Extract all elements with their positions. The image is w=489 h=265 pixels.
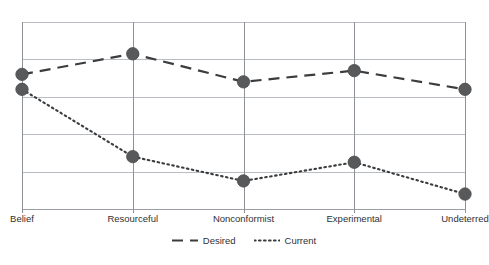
legend-label: Current: [285, 235, 317, 246]
chart-legend: DesiredCurrent: [0, 235, 488, 246]
data-point-marker[interactable]: [348, 64, 360, 76]
legend-swatch-dotted: [254, 236, 280, 245]
series-layer: [22, 22, 465, 209]
data-point-marker[interactable]: [459, 83, 471, 95]
data-point-marker[interactable]: [237, 175, 249, 187]
data-point-marker[interactable]: [16, 68, 28, 80]
legend-swatch-dashed: [172, 236, 198, 245]
legend-label: Desired: [203, 235, 236, 246]
x-axis-label-nonconformist: Nonconformist: [213, 213, 274, 225]
data-point-marker[interactable]: [237, 76, 249, 88]
x-axis-label-undeterred: Undeterred: [441, 213, 489, 225]
legend-item-desired[interactable]: Desired: [172, 235, 236, 246]
data-point-marker[interactable]: [127, 48, 139, 60]
data-point-marker[interactable]: [348, 156, 360, 168]
legend-item-current[interactable]: Current: [254, 235, 317, 246]
category-tick-undeterred: [465, 22, 466, 209]
x-axis-label-belief: Belief: [10, 213, 34, 225]
data-point-marker[interactable]: [127, 150, 139, 162]
plot-area: [22, 22, 465, 209]
x-axis-label-resourceful: Resourceful: [107, 213, 158, 225]
data-point-marker[interactable]: [16, 83, 28, 95]
x-axis-labels: BeliefResourcefulNonconformistExperiment…: [0, 213, 488, 231]
x-axis-label-experimental: Experimental: [327, 213, 382, 225]
data-point-marker[interactable]: [459, 188, 471, 200]
